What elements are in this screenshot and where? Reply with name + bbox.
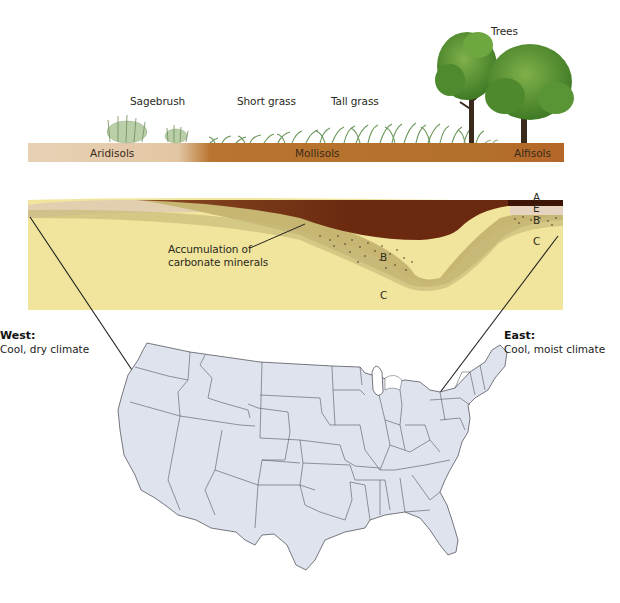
east-title: East: <box>504 329 535 342</box>
west-climate: Cool, dry climate <box>0 343 89 355</box>
carbonate-annotation-line1: Accumulation of <box>168 243 268 256</box>
carbonate-annotation-line2: carbonate minerals <box>168 256 268 269</box>
short-grass-label: Short grass <box>237 95 296 107</box>
alfisol-b-horizon-label: B <box>533 214 540 226</box>
east-climate: Cool, moist climate <box>504 343 605 355</box>
west-title: West: <box>0 329 35 342</box>
trees-icon <box>435 32 574 143</box>
us-map <box>118 343 507 570</box>
mollisol-b-horizon-label: B <box>380 251 387 263</box>
tall-grass-label: Tall grass <box>331 95 379 107</box>
carbonate-annotation: Accumulation of carbonate minerals <box>168 243 268 269</box>
alfisol-e-horizon-label: E <box>533 202 540 214</box>
trees-label: Trees <box>491 25 518 37</box>
soil-diagram-illustration <box>0 0 620 603</box>
mollisols-label: Mollisols <box>295 147 340 159</box>
alfisol-c-horizon-label: C <box>533 235 540 247</box>
soil-cross-section <box>28 198 563 310</box>
mollisol-c-horizon-label: C <box>380 289 387 301</box>
grass-icon <box>209 123 498 143</box>
aridisols-label: Aridisols <box>90 147 134 159</box>
alfisols-label: Alfisols <box>514 147 551 159</box>
sagebrush-icon <box>107 115 188 143</box>
sagebrush-label: Sagebrush <box>130 95 185 107</box>
